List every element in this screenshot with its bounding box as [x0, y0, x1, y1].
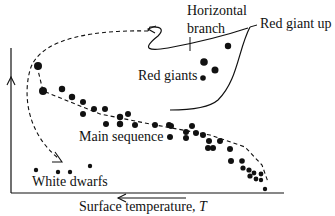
x-axis-label-symbol: T [199, 199, 207, 214]
x-axis-label: Surface temperature, T [79, 200, 207, 214]
red-giants-label: Red giants [138, 69, 198, 83]
white-dwarf-stars [34, 164, 92, 174]
white-dwarfs-label: White dwarfs [32, 175, 108, 189]
red-giant-up-leader [250, 25, 257, 27]
horizontal-branch-label-line1: Horizontal [187, 4, 247, 18]
red-giant-up-label: Red giant up [260, 17, 332, 31]
red-giant-stars [200, 43, 231, 81]
x-axis-label-text: Surface temperature, [79, 199, 199, 214]
main-sequence-label: Main sequence [79, 130, 163, 144]
horizontal-branch-label-line2: branch [187, 22, 225, 36]
